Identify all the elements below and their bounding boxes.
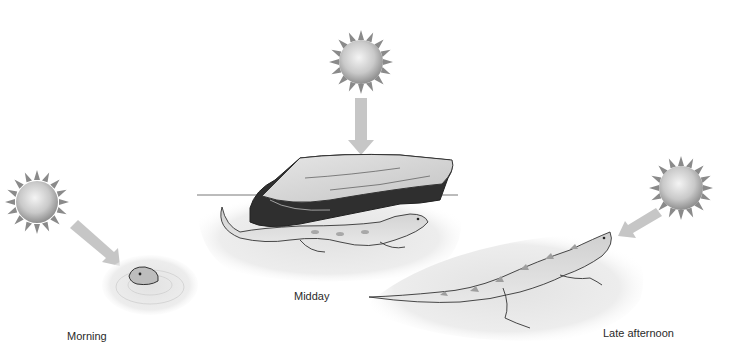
sun-icon — [5, 170, 69, 234]
sunlight-arrow-icon — [348, 98, 374, 155]
sunlight-arrow-icon — [70, 220, 120, 266]
panel-morning — [5, 170, 198, 315]
label-morning: Morning — [67, 330, 107, 342]
panel-midday — [197, 30, 462, 281]
thermoregulation-diagram — [0, 0, 737, 355]
sunlight-arrow-icon — [618, 208, 662, 238]
sun-icon — [649, 156, 713, 220]
label-late-afternoon: Late afternoon — [603, 327, 674, 339]
label-midday: Midday — [294, 290, 329, 302]
sun-icon — [329, 30, 393, 94]
